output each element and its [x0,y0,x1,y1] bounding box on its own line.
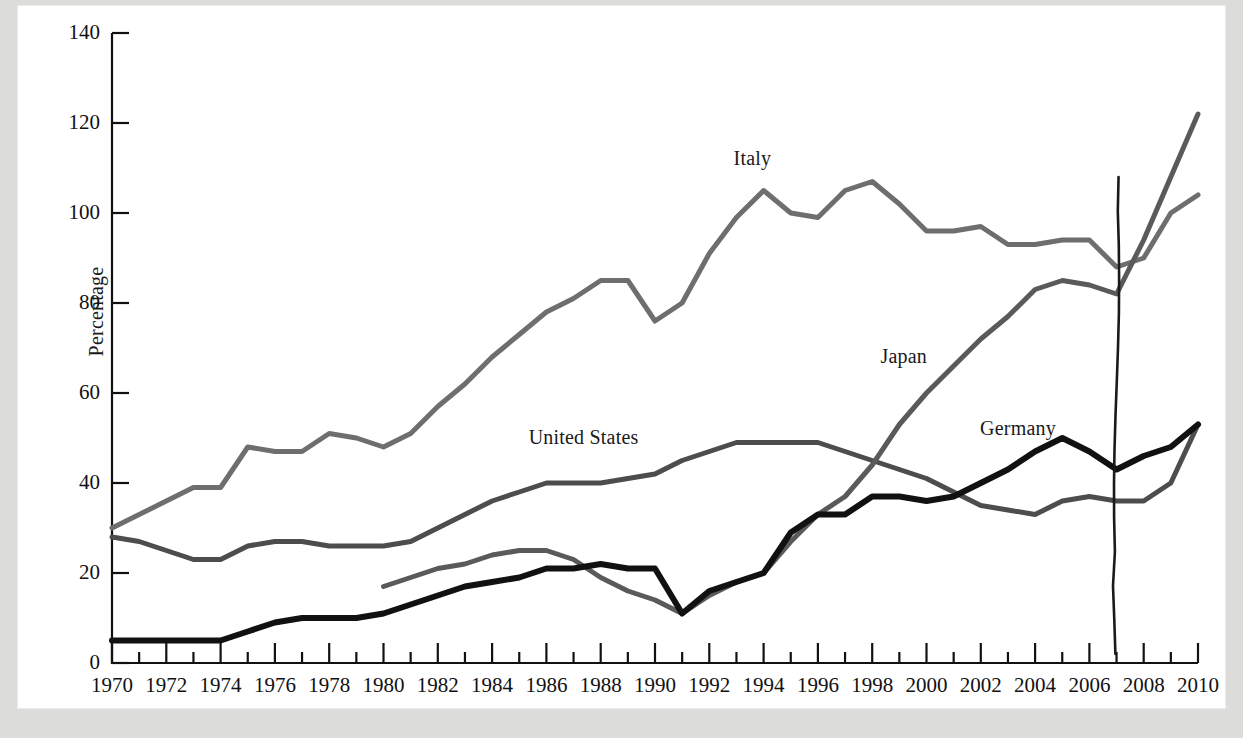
x-tick-label: 1982 [407,675,469,696]
series-lines [112,114,1198,641]
x-tick-label: 1988 [570,675,632,696]
x-tick-label: 1992 [678,675,740,696]
x-tick-label: 1970 [81,675,143,696]
x-tick-label: 2006 [1058,675,1120,696]
x-tick-label: 1998 [841,675,903,696]
y-tick-label: 120 [40,112,100,133]
x-tick-label: 1990 [624,675,686,696]
y-tick-label: 80 [40,292,100,313]
y-tick-label: 60 [40,382,100,403]
y-tick-label: 140 [40,22,100,43]
x-tick-label: 1984 [461,675,523,696]
x-tick-label: 2000 [896,675,958,696]
x-tick-label: 1994 [733,675,795,696]
y-tick-label: 100 [40,202,100,223]
series-label-united-states: United States [529,426,639,449]
x-tick-label: 2004 [1004,675,1066,696]
y-tick-label: 20 [40,562,100,583]
line-chart [0,0,1243,738]
x-tick-label: 2010 [1167,675,1229,696]
x-tick-label: 1996 [787,675,849,696]
x-tick-label: 1974 [190,675,252,696]
x-tick-label: 1986 [515,675,577,696]
x-tick-label: 1978 [298,675,360,696]
x-tick-label: 1972 [135,675,197,696]
x-tick-label: 1976 [244,675,306,696]
y-tick-label: 0 [40,652,100,673]
series-label-italy: Italy [734,147,772,170]
series-label-germany: Germany [980,417,1056,440]
y-tick-label: 40 [40,472,100,493]
vertical-annotation-line [1113,177,1119,654]
x-tick-label: 1980 [353,675,415,696]
x-tick-label: 2008 [1113,675,1175,696]
series-label-japan: Japan [881,345,928,368]
figure-page: Percentage 020406080100120140 1970197219… [0,0,1243,738]
x-tick-label: 2002 [950,675,1012,696]
